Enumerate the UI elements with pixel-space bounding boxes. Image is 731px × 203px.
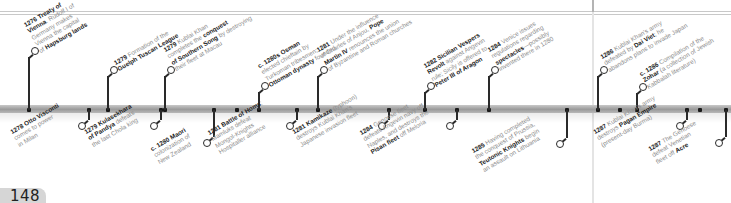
event-stem	[317, 76, 319, 110]
event-marker-circle-icon	[446, 122, 454, 130]
event-stem	[28, 57, 30, 110]
top-rule-lower	[0, 14, 731, 15]
page-gutter	[592, 0, 594, 203]
event-stem	[88, 110, 90, 120]
event-stem	[164, 76, 166, 110]
event-stem	[160, 110, 162, 120]
event-label-above: 1284 Venice issuesregulations regardings…	[486, 16, 555, 73]
event-label-below below: c. 1280 Maoricolonization ofNew Zealand	[149, 126, 195, 165]
event-stem	[686, 110, 688, 120]
event-stem	[296, 110, 298, 120]
event-marker-circle-icon	[203, 139, 211, 147]
event-marker-circle-icon	[556, 140, 564, 148]
event-stem	[597, 76, 599, 110]
event-stem	[107, 76, 109, 110]
timeline-tick	[235, 108, 239, 112]
top-rule-upper	[0, 11, 731, 12]
event-label-above: 1276 Treaty ofVienna. Rudolf I ofGermany…	[22, 0, 88, 54]
timeline-tick	[618, 108, 622, 112]
event-stem	[488, 76, 490, 110]
event-stem	[456, 110, 458, 120]
page-number: 148	[10, 187, 40, 203]
page-gutter-top	[592, 0, 594, 12]
event-stem	[566, 110, 568, 138]
event-label-above: 1282 Sicilian VespersRevolt against Ange…	[422, 31, 494, 89]
event-marker-circle-icon	[150, 122, 158, 130]
event-marker-circle-icon	[715, 139, 723, 147]
event-stem	[725, 110, 727, 137]
timeline-tick	[698, 108, 702, 112]
